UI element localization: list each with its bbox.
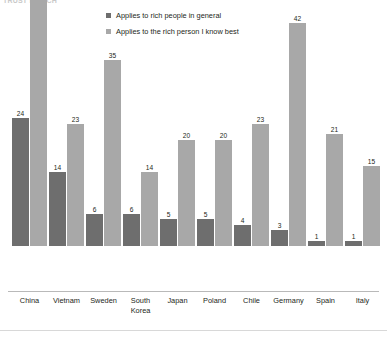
bar[interactable]: 15	[363, 166, 380, 246]
bar[interactable]: 47	[30, 0, 47, 246]
x-axis-baseline	[8, 291, 379, 292]
bar[interactable]: 35	[104, 60, 121, 246]
bar[interactable]: 23	[67, 124, 84, 246]
bar[interactable]: 6	[123, 214, 140, 246]
bar-value-label: 20	[178, 131, 195, 140]
bar-value-label: 5	[197, 210, 214, 219]
bar[interactable]: 21	[326, 134, 343, 246]
bar-value-label: 15	[363, 157, 380, 166]
bar-value-label: 5	[160, 210, 177, 219]
bar-value-label: 6	[123, 205, 140, 214]
bar[interactable]: 14	[49, 172, 66, 246]
bar-value-label: 3	[271, 221, 288, 230]
bar[interactable]: 4	[234, 225, 251, 246]
bar[interactable]: 3	[271, 230, 288, 246]
bar[interactable]: 1	[345, 241, 362, 246]
bar-value-label: 1	[308, 232, 325, 241]
bottom-divider	[0, 330, 387, 331]
bar[interactable]: 23	[252, 124, 269, 246]
bar[interactable]: 42	[289, 23, 306, 246]
bar[interactable]: 1	[308, 241, 325, 246]
bar-value-label: 20	[215, 131, 232, 140]
bar[interactable]: 24	[12, 118, 29, 246]
category-label: Italy	[340, 296, 386, 306]
bar[interactable]: 6	[86, 214, 103, 246]
bar-value-label: 23	[252, 115, 269, 124]
bar-value-label: 24	[12, 109, 29, 118]
bar-value-label: 4	[234, 216, 251, 225]
bar[interactable]: 20	[178, 140, 195, 246]
bar[interactable]: 5	[197, 219, 214, 246]
bar-value-label: 6	[86, 205, 103, 214]
bar[interactable]: 5	[160, 219, 177, 246]
bar-value-label: 14	[141, 163, 158, 172]
bar[interactable]: 20	[215, 140, 232, 246]
bar[interactable]: 14	[141, 172, 158, 246]
x-axis-category-labels: ChinaVietnamSwedenSouthKoreaJapanPolandC…	[0, 296, 387, 326]
bar-value-label: 21	[326, 125, 343, 134]
bar-value-label: 23	[67, 115, 84, 124]
bar-value-label: 14	[49, 163, 66, 172]
bar-value-label: 1	[345, 232, 362, 241]
bar-value-label: 42	[289, 14, 306, 23]
bar-value-label: 35	[104, 51, 121, 60]
plot-area: 24471423635614520520423342121115	[0, 0, 387, 292]
